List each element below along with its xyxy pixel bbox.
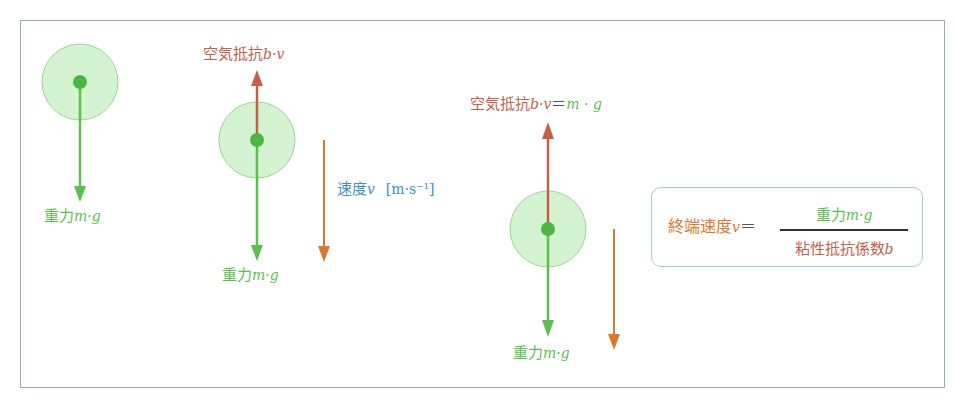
denominator-text: 粘性抵抗係数 bbox=[795, 240, 885, 258]
gravity-math: m·g bbox=[74, 208, 101, 224]
formula-lhs: 終端速度v＝ bbox=[668, 219, 756, 235]
stage3-air-resistance-label: 空気抵抗b·v＝m · g bbox=[470, 97, 602, 112]
gravity-text: 重力 bbox=[222, 266, 252, 284]
air-resistance-math: b·v bbox=[530, 96, 551, 112]
gravity-text: 重力 bbox=[513, 344, 543, 362]
formula-fraction: 重力m·g 粘性抵抗係数b bbox=[780, 203, 908, 258]
velocity-math: v bbox=[367, 181, 375, 197]
stage2-ball bbox=[219, 70, 295, 261]
air-resistance-text: 空気抵抗 bbox=[203, 45, 263, 63]
stage2-air-resistance-label: 空気抵抗b·v bbox=[203, 47, 284, 62]
terminal-velocity-text: 終端速度 bbox=[668, 217, 732, 236]
gravity-math: m·g bbox=[543, 345, 570, 361]
fraction-bar bbox=[780, 229, 908, 231]
numerator-text: 重力 bbox=[816, 206, 846, 224]
stage1-gravity-label: 重力m·g bbox=[44, 209, 101, 224]
balance-math: m · g bbox=[566, 96, 602, 112]
stage3-gravity-label: 重力m·g bbox=[513, 346, 570, 361]
stage2-velocity-arrow bbox=[318, 140, 330, 262]
velocity-text: 速度 bbox=[337, 180, 367, 198]
stage2-gravity-label: 重力m·g bbox=[222, 268, 279, 283]
air-resistance-math: b·v bbox=[263, 46, 284, 62]
stage3-velocity-arrow bbox=[608, 229, 620, 350]
terminal-velocity-math: v bbox=[732, 219, 740, 235]
stage1-ball bbox=[42, 44, 118, 202]
stage2-velocity-label: 速度v [m·s⁻¹] bbox=[337, 182, 435, 197]
stage3-ball bbox=[510, 122, 586, 337]
denominator-math: b bbox=[885, 241, 894, 257]
gravity-text: 重力 bbox=[44, 207, 74, 225]
numerator-math: m·g bbox=[846, 207, 873, 223]
velocity-unit: [m·s⁻¹] bbox=[386, 181, 435, 197]
equals-sign: ＝ bbox=[740, 217, 756, 236]
fraction-denominator: 粘性抵抗係数b bbox=[780, 237, 908, 258]
air-resistance-text: 空気抵抗 bbox=[470, 95, 530, 113]
gravity-math: m·g bbox=[252, 267, 279, 283]
fraction-numerator: 重力m·g bbox=[780, 203, 908, 224]
equals-sign: ＝ bbox=[551, 95, 566, 113]
